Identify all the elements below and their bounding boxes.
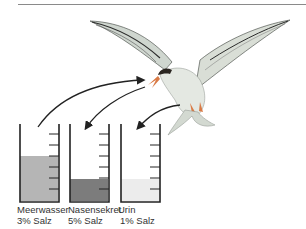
beaker-value: 3% Salz <box>17 215 69 226</box>
arrow-body-to-urin <box>138 105 180 128</box>
beaker-meerwasser <box>20 124 59 202</box>
beaker-value: 1% Salz <box>118 215 155 226</box>
beaker-urin <box>121 124 160 202</box>
diagram-canvas <box>0 0 306 229</box>
beaker-name: Nasensekret <box>68 204 121 215</box>
beaker-name: Urin <box>118 204 155 215</box>
arrow-meerwasser-to-beak <box>38 80 143 127</box>
tern-illustration <box>90 20 290 135</box>
label-urin: Urin 1% Salz <box>118 204 155 226</box>
beaker-name: Meerwasser <box>17 204 69 215</box>
arrow-beak-to-nasensekret <box>86 87 145 128</box>
label-meerwasser: Meerwasser 3% Salz <box>17 204 69 226</box>
beaker-nasensekret <box>70 124 109 202</box>
beaker-value: 5% Salz <box>68 215 121 226</box>
label-nasensekret: Nasensekret 5% Salz <box>68 204 121 226</box>
